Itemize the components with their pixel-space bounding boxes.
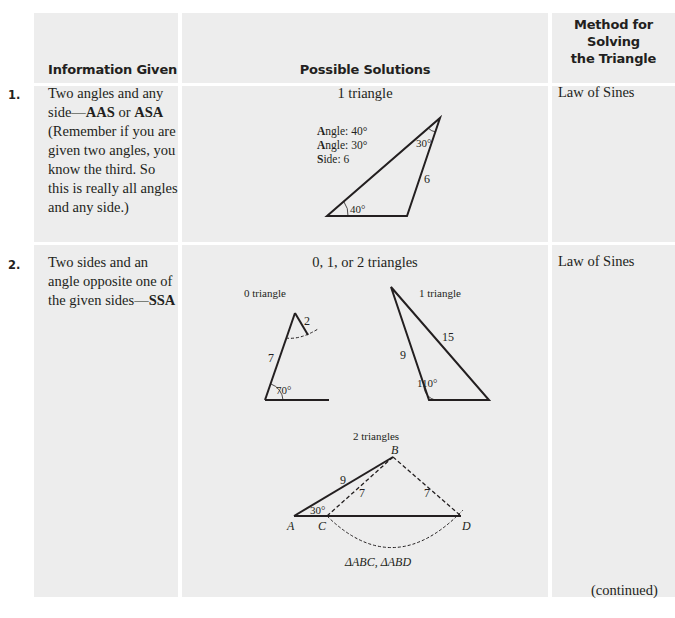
zero-triangle-title: 0 triangle	[244, 287, 286, 299]
ssa-diagrams: 0 triangle 2 7 70° 1 triangle 15 9 110° …	[0, 0, 675, 618]
zero-side-2: 2	[304, 314, 310, 328]
two-side-ab-9: 9	[340, 473, 346, 487]
point-a: A	[286, 519, 295, 533]
two-angle-30: 30°	[310, 504, 325, 516]
two-side-bd-7: 7	[424, 486, 430, 500]
one-triangle-diagram: 1 triangle 15 9 110°	[391, 287, 489, 400]
continued-note: (continued)	[591, 581, 658, 600]
point-b: B	[391, 443, 399, 457]
two-triangles-caption: ΔABC, ΔABD	[344, 555, 411, 569]
zero-triangle-diagram: 0 triangle 2 7 70°	[244, 287, 329, 400]
two-triangles-diagram: 2 triangles 9 7 7 30° A B C D ΔABC, ΔABD	[286, 430, 471, 569]
one-triangle-title: 1 triangle	[419, 287, 461, 299]
one-angle-110: 110°	[417, 377, 438, 389]
point-d: D	[461, 519, 471, 533]
one-side-15: 15	[442, 330, 454, 344]
two-triangles-title: 2 triangles	[353, 430, 399, 442]
two-side-bc-7: 7	[359, 486, 365, 500]
one-side-9: 9	[400, 348, 406, 362]
zero-side-7: 7	[268, 351, 274, 365]
zero-angle-70: 70°	[276, 384, 291, 396]
point-c: C	[318, 519, 327, 533]
